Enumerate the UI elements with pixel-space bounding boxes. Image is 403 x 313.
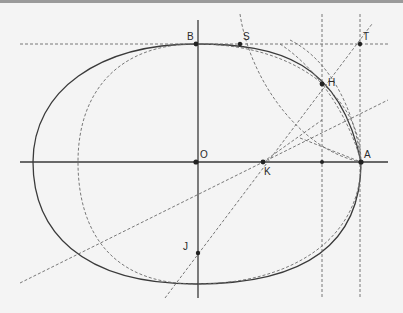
line-k-upper: [263, 120, 322, 162]
point-s: [238, 42, 242, 46]
arc-inner: [280, 44, 361, 162]
label-a: A: [364, 149, 371, 160]
label-o: O: [200, 149, 208, 160]
point-k: [261, 160, 266, 165]
point-o: [193, 159, 198, 164]
label-h: H: [328, 77, 335, 88]
point-a: [358, 159, 363, 164]
arc-h-a: [290, 40, 361, 162]
label-b: B: [187, 31, 194, 42]
label-t: T: [363, 31, 369, 42]
ellipse-construction-diagram: B S T H O K A J: [0, 0, 403, 313]
point-h: [320, 82, 325, 87]
point-j: [196, 251, 200, 255]
point-b: [194, 42, 199, 47]
point-t: [358, 42, 362, 46]
label-k: K: [264, 166, 271, 177]
line-k-shallow: [20, 100, 388, 283]
point-h-foot: [320, 160, 324, 164]
label-s: S: [243, 31, 250, 42]
label-j: J: [183, 241, 188, 252]
arc-s-a: [240, 14, 361, 162]
line-to-a: [300, 138, 361, 162]
